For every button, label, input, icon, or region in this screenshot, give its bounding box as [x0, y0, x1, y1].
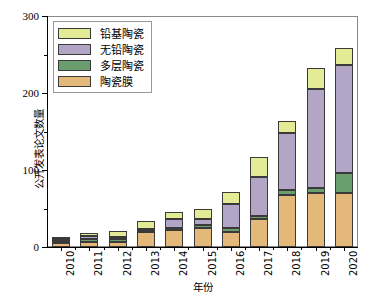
x-tick-minor [273, 247, 274, 250]
bar-segment [222, 232, 240, 247]
bar-segment [165, 219, 183, 228]
x-tick-label: 2013 [150, 251, 161, 276]
bar-segment [52, 241, 70, 243]
bar-segment [109, 239, 127, 241]
bar-column [307, 16, 325, 247]
bar-segment [278, 190, 296, 195]
bar-segment [335, 48, 353, 64]
y-tick-label: 0 [34, 242, 40, 253]
bar-segment [278, 133, 296, 190]
bar-segment [307, 68, 325, 89]
x-tick-label: 2017 [263, 251, 274, 276]
x-tick-major [231, 247, 232, 251]
x-tick-major [118, 247, 119, 251]
bar-segment [194, 219, 212, 225]
x-axis-title: 年份 [47, 279, 358, 294]
x-tick-major [174, 247, 175, 251]
bar-column [335, 16, 353, 247]
x-tick-label: 2011 [93, 251, 104, 276]
bar-segment [307, 193, 325, 247]
bar-segment [109, 237, 127, 239]
bar-column [194, 16, 212, 247]
x-tick-label: 2015 [207, 251, 218, 276]
x-tick-minor [188, 247, 189, 250]
bar-segment [250, 157, 268, 177]
x-tick-label: 2018 [291, 251, 302, 276]
bar-segment [307, 188, 325, 193]
bar-segment [194, 209, 212, 219]
x-tick-minor [301, 247, 302, 250]
legend-item-label: 铅基陶瓷 [100, 25, 144, 41]
legend-swatch-icon [58, 28, 91, 39]
bar-segment [250, 177, 268, 216]
bar-segment [222, 204, 240, 228]
bar-segment [137, 232, 155, 247]
bar-segment [222, 192, 240, 204]
x-tick-minor [75, 247, 76, 250]
x-tick-major [344, 247, 345, 251]
x-tick-label: 2012 [122, 251, 133, 276]
chart-legend: 铅基陶瓷无铅陶瓷多层陶瓷陶瓷膜 [53, 21, 152, 93]
legend-swatch-icon [58, 60, 91, 71]
x-tick-major [316, 247, 317, 251]
x-tick-major [61, 247, 62, 251]
legend-item-label: 无铅陶瓷 [100, 41, 144, 57]
x-tick-minor [104, 247, 105, 250]
legend-item: 陶瓷膜 [58, 73, 144, 89]
bar-segment [278, 195, 296, 247]
bar-column [222, 16, 240, 247]
bar-segment [80, 233, 98, 236]
x-tick-minor [160, 247, 161, 250]
bar-column [278, 16, 296, 247]
x-tick-major [203, 247, 204, 251]
legend-swatch-icon [58, 44, 91, 55]
bar-segment [109, 231, 127, 237]
legend-item-label: 陶瓷膜 [100, 73, 133, 89]
bar-column [165, 16, 183, 247]
stacked-bar-chart: 0100200300 公开发表论文数量 年份 20102011201220132… [0, 0, 367, 297]
x-tick-label: 2016 [235, 251, 246, 276]
x-tick-major [287, 247, 288, 251]
y-tick-label: 200 [23, 88, 40, 99]
bar-segment [335, 193, 353, 247]
legend-item: 多层陶瓷 [58, 57, 144, 73]
legend-item-label: 多层陶瓷 [100, 57, 144, 73]
bar-segment [137, 229, 155, 231]
x-tick-major [89, 247, 90, 251]
bar-segment [194, 228, 212, 247]
bar-column [250, 16, 268, 247]
bar-segment [307, 89, 325, 188]
y-axis-title: 公开发表论文数量 [31, 109, 46, 189]
bar-segment [80, 239, 98, 242]
bar-segment [165, 230, 183, 247]
bar-segment [250, 219, 268, 247]
bar-segment [335, 173, 353, 193]
bar-segment [52, 237, 70, 239]
x-tick-minor [245, 247, 246, 250]
bar-segment [137, 221, 155, 229]
bar-segment [194, 225, 212, 227]
legend-item: 铅基陶瓷 [58, 25, 144, 41]
bar-segment [250, 216, 268, 218]
bar-segment [278, 121, 296, 133]
y-tick-label: 300 [23, 11, 40, 22]
x-tick-minor [132, 247, 133, 250]
bar-segment [165, 228, 183, 230]
legend-item: 无铅陶瓷 [58, 41, 144, 57]
x-tick-major [146, 247, 147, 251]
x-tick-minor [217, 247, 218, 250]
x-tick-major [259, 247, 260, 251]
x-tick-label: 2010 [65, 251, 76, 276]
x-tick-label: 2020 [348, 251, 359, 276]
bar-segment [222, 228, 240, 233]
legend-swatch-icon [58, 76, 91, 87]
x-tick-minor [330, 247, 331, 250]
bar-segment [80, 236, 98, 238]
x-tick-label: 2014 [178, 251, 189, 276]
bar-segment [165, 212, 183, 218]
x-tick-label: 2019 [320, 251, 331, 276]
bar-segment [335, 65, 353, 174]
